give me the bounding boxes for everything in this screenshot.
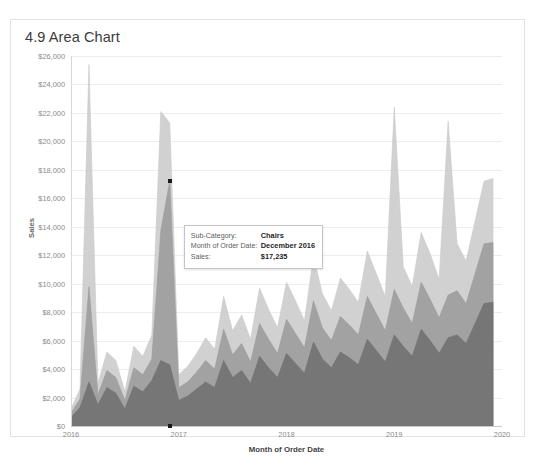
y-tick-label: $26,000 (38, 52, 65, 61)
tooltip-value: $17,235 (261, 252, 288, 263)
tooltip-key: Sales: (191, 252, 261, 262)
x-tick-label: 2019 (386, 430, 402, 439)
y-tick-label: $24,000 (38, 80, 65, 89)
y-tick-label: $14,000 (38, 222, 65, 231)
tooltip-key: Month of Order Date: (191, 241, 261, 251)
x-tick-label: 2017 (171, 430, 187, 439)
tooltip-key: Sub-Category: (191, 231, 261, 241)
x-tick-label: 2018 (278, 430, 294, 439)
y-axis-label: Sales (27, 218, 36, 238)
tooltip-row: Sales: $17,235 (191, 252, 315, 263)
screenshot-root: 4.9 Area Chart Sales $0$2,000$4,000$6,00… (0, 0, 536, 459)
y-tick-label: $20,000 (38, 137, 65, 146)
y-tick-label: $4,000 (42, 365, 65, 374)
chart-card: 4.9 Area Chart Sales $0$2,000$4,000$6,00… (10, 19, 525, 437)
tooltip-row: Sub-Category: Chairs (191, 231, 315, 242)
tooltip-value: Chairs (261, 231, 284, 242)
tooltip-value: December 2016 (261, 241, 315, 252)
x-axis-highlight-marker (168, 424, 172, 428)
x-tick-label: 2016 (63, 430, 79, 439)
data-tooltip: Sub-Category: Chairs Month of Order Date… (184, 225, 323, 269)
y-tick-label: $6,000 (42, 336, 65, 345)
page-title: 4.9 Area Chart (25, 29, 120, 45)
y-axis-line (71, 56, 72, 426)
y-tick-label: $18,000 (38, 165, 65, 174)
tooltip-row: Month of Order Date: December 2016 (191, 241, 315, 252)
y-tick-label: $2,000 (42, 393, 65, 402)
y-tick-label: $10,000 (38, 279, 65, 288)
y-tick-label: $12,000 (38, 251, 65, 260)
x-tick-label: 2020 (494, 430, 510, 439)
y-tick-label: $16,000 (38, 194, 65, 203)
highlighted-data-point[interactable] (168, 179, 172, 183)
y-tick-label: $8,000 (42, 308, 65, 317)
x-axis-line (71, 426, 502, 427)
x-axis-label: Month of Order Date (71, 445, 502, 454)
y-tick-label: $22,000 (38, 108, 65, 117)
